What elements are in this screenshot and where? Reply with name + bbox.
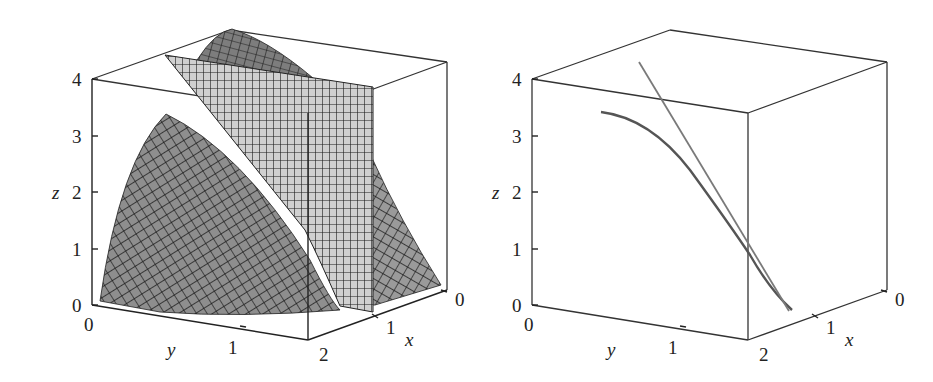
curve-plot-panel: 4 3 2 1 0 z 0 1 2 y 1 0 x [440, 0, 906, 382]
curve-plot-canvas [440, 0, 906, 382]
z-tick-3: 3 [72, 127, 82, 146]
z-tick-2: 2 [72, 183, 82, 202]
x-tick-0: 0 [895, 290, 905, 309]
y-tick-2: 2 [319, 345, 329, 364]
y-tick-0: 0 [84, 315, 94, 334]
y-axis-label: y [607, 340, 615, 359]
z-tick-0: 0 [512, 296, 522, 315]
z-tick-3: 3 [512, 127, 522, 146]
x-tick-1: 1 [826, 318, 836, 337]
y-tick-2: 2 [759, 345, 769, 364]
y-axis-label: y [167, 340, 175, 359]
x-axis-label: x [845, 330, 853, 349]
intersection-curve [601, 112, 792, 310]
z-axis-label: z [52, 183, 59, 202]
z-tick-0: 0 [72, 296, 82, 315]
z-tick-1: 1 [72, 240, 82, 259]
z-axis-label: z [492, 183, 499, 202]
tangent-line [639, 62, 789, 311]
axis-ticks [532, 79, 887, 327]
surface-right-region [372, 158, 441, 305]
z-tick-4: 4 [512, 70, 522, 89]
surface-plot-panel: 4 3 2 1 0 z 0 1 2 y 1 0 x [0, 0, 466, 382]
x-axis-label: x [405, 330, 413, 349]
x-tick-1: 1 [386, 318, 396, 337]
z-tick-2: 2 [512, 183, 522, 202]
y-tick-1: 1 [668, 338, 678, 357]
y-tick-1: 1 [228, 338, 238, 357]
surface-plot-canvas [0, 0, 466, 382]
z-tick-4: 4 [72, 70, 82, 89]
bounding-box [532, 30, 887, 340]
y-tick-0: 0 [524, 315, 534, 334]
z-tick-1: 1 [512, 240, 522, 259]
